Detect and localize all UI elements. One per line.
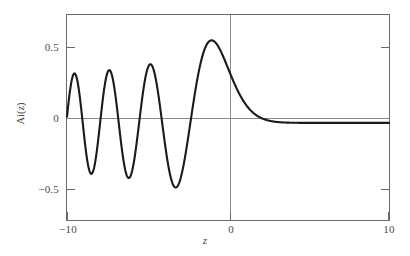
ytick-label-0.5: 0.5 [26,41,59,53]
plot-canvas [0,0,410,256]
plot-frame [67,15,390,221]
y-axis-label: Ai(z) [15,88,26,140]
ytick-label-minus-0.5: −0.5 [22,183,59,195]
x-axis-label: z [0,234,410,246]
y-axis-label-wrap: Ai(z) [10,92,30,144]
ytick-label-0: 0 [26,112,59,124]
airy-function-chart: 0.5 0 −0.5 −10 0 10 z Ai(z) [0,0,410,256]
